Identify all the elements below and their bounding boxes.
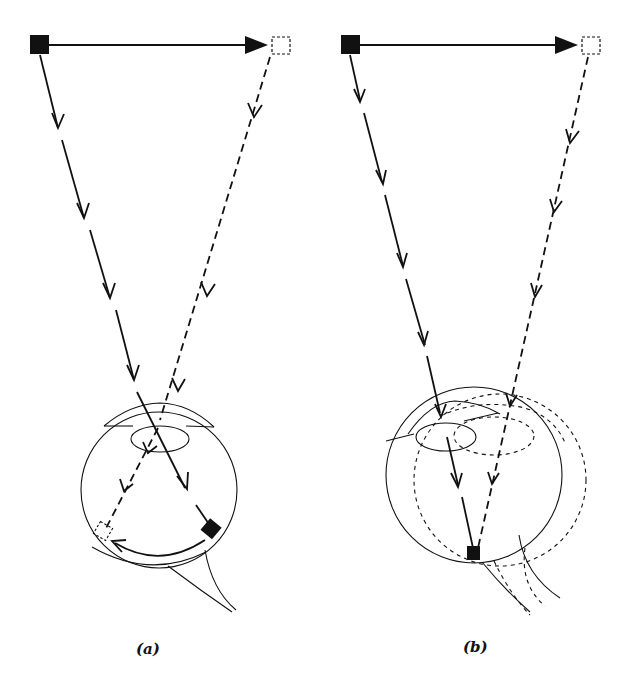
- arrowhead-icon: [555, 36, 578, 54]
- solid-ray: [40, 55, 213, 530]
- figure-canvas: [0, 0, 620, 688]
- object-start-square: [341, 35, 360, 54]
- dashed-ray: [478, 57, 588, 548]
- eyeball: [386, 387, 562, 612]
- object-start-square: [30, 35, 49, 54]
- retinal-image-end: [93, 521, 112, 540]
- object-end-square: [272, 37, 290, 54]
- object-end-square: [582, 37, 600, 54]
- retinal-motion-arrow: [115, 540, 205, 556]
- retinal-image: [467, 546, 480, 560]
- panel-a-label: (a): [136, 640, 160, 658]
- arrowhead-icon: [245, 36, 268, 54]
- solid-ray: [350, 55, 473, 548]
- rotated-eyeball: [414, 394, 586, 615]
- panel-b: [341, 35, 600, 615]
- retinal-image-start: [200, 518, 221, 539]
- dashed-ray: [104, 57, 270, 532]
- panel-b-label: (b): [463, 638, 488, 656]
- panel-a: [30, 35, 290, 612]
